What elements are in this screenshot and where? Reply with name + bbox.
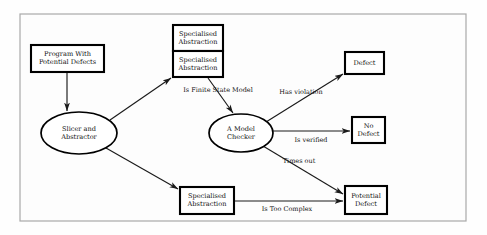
node-label-spec-abstraction-bottom-1: Abstraction (187, 200, 228, 208)
node-label-slicer-0: Slicer and (62, 125, 97, 133)
node-label-spec-abstraction-mid-1: Abstraction (178, 64, 219, 72)
node-label-program-0: Program With (44, 50, 92, 58)
node-label-potential-defect-1: Defect (355, 200, 377, 208)
node-label-no-defect-1: Defect (358, 130, 380, 138)
edge-label-spec-mid-to-model-checker: Is Finite State Model (183, 86, 252, 94)
node-spec-abstraction-top[interactable]: SpecialisedAbstraction (173, 25, 223, 51)
node-defect[interactable]: Defect (345, 52, 384, 74)
edge-label-spec-bottom-to-potential-defect: Is Too Complex (262, 205, 313, 213)
edge-label-model-checker-to-no-defect: Is verified (294, 136, 327, 144)
flow-diagram: Program WithPotential DefectsSpecialised… (0, 0, 487, 235)
node-label-program-1: Potential Defects (39, 58, 97, 66)
node-potential-defect[interactable]: PotentialDefect (345, 186, 387, 214)
diagram-canvas: Program WithPotential DefectsSpecialised… (0, 0, 487, 235)
node-label-spec-abstraction-top-0: Specialised (179, 30, 218, 38)
edge-label-model-checker-to-defect: Has violation (279, 88, 322, 96)
node-label-model-checker-1: Checker (227, 133, 256, 141)
node-label-spec-abstraction-top-1: Abstraction (178, 38, 219, 46)
node-model-checker[interactable]: A ModelChecker (209, 114, 273, 152)
node-spec-abstraction-mid[interactable]: SpecialisedAbstraction (173, 51, 223, 77)
node-program[interactable]: Program WithPotential Defects (31, 45, 104, 72)
edge-label-model-checker-to-potential-defect: Times out (283, 157, 316, 165)
node-label-slicer-1: Abstractor (60, 133, 97, 141)
node-slicer[interactable]: Slicer andAbstractor (41, 112, 117, 154)
node-label-defect-0: Defect (354, 59, 376, 67)
node-label-no-defect-0: No (364, 122, 374, 130)
node-label-spec-abstraction-mid-0: Specialised (179, 56, 218, 64)
node-label-spec-abstraction-bottom-0: Specialised (188, 192, 227, 200)
node-no-defect[interactable]: NoDefect (352, 117, 385, 143)
node-spec-abstraction-bottom[interactable]: SpecialisedAbstraction (180, 187, 234, 214)
node-label-potential-defect-0: Potential (351, 192, 381, 200)
node-label-model-checker-0: A Model (226, 125, 255, 133)
